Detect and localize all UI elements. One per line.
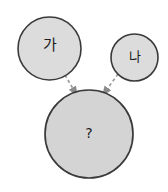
node-na-label: 나 <box>129 49 141 64</box>
diagram-svg: ? 가 나 <box>0 0 168 192</box>
node-na[interactable]: 나 <box>111 34 158 81</box>
arrow-na-to-result-line <box>105 74 118 92</box>
node-result[interactable]: ? <box>45 90 133 178</box>
arrow-na-to-result <box>105 74 118 92</box>
node-result-label: ? <box>85 125 92 141</box>
node-ga-label: 가 <box>43 36 57 54</box>
diagram-canvas: ? 가 나 <box>0 0 168 192</box>
node-ga[interactable]: 가 <box>18 17 81 80</box>
